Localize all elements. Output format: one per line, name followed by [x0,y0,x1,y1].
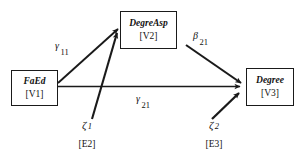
path-arrow-beta21 [186,45,241,83]
disturbance-zeta2-code: [E3] [196,140,232,150]
node-degreasp-code: [V2] [140,30,158,42]
path-label-gamma11-symbol: γ [55,40,59,51]
node-degree-name: Degree [256,75,284,86]
disturbance-zeta2-glyph: ζ [209,119,213,131]
node-degree-code: [V3] [261,87,279,99]
disturbance-arrow-zeta1 [92,33,117,119]
disturbance-zeta1-symbol: ζ1 [69,120,105,131]
node-faed: FaEd [V1] [11,70,58,106]
disturbance-arrow-zeta2 [212,93,239,119]
path-diagram: FaEd [V1] DegreAsp [V2] Degree [V3] γ11 … [0,0,306,166]
disturbance-zeta2-symbol: ζ2 [196,120,232,131]
path-label-gamma11-subscript: 11 [60,47,68,57]
path-label-gamma21-subscript: 21 [141,100,150,110]
path-label-beta21-subscript: 21 [199,37,208,47]
node-degreasp-name: DegreAsp [129,18,168,29]
node-faed-code: [V1] [26,88,44,100]
node-faed-name: FaEd [23,76,45,87]
disturbance-zeta1-code: [E2] [69,140,105,150]
path-label-beta21-symbol: β [193,30,198,41]
disturbance-zeta2-subscript: 2 [215,121,219,131]
node-degree: Degree [V3] [246,68,294,106]
disturbance-zeta2: ζ2 [E3] [196,120,232,150]
disturbance-zeta1-glyph: ζ [82,119,86,131]
path-label-gamma11: γ11 [55,41,69,58]
node-degreasp: DegreAsp [V2] [120,11,177,49]
disturbance-zeta1-subscript: 1 [88,121,92,131]
path-label-gamma21: γ21 [136,94,150,111]
path-label-beta21: β21 [193,31,208,48]
path-label-gamma21-symbol: γ [136,93,140,104]
disturbance-zeta1: ζ1 [E2] [69,120,105,150]
